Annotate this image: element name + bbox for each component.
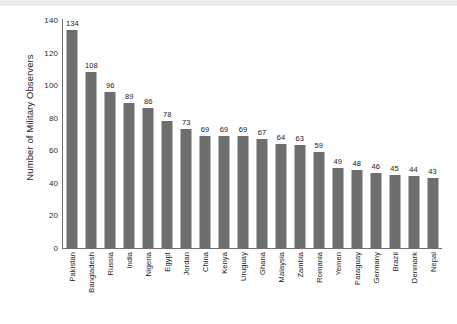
bar-value-label: 96 [106, 81, 115, 90]
bar[interactable] [351, 170, 362, 248]
bar-value-label: 134 [66, 19, 79, 28]
x-tick-slot: Russia [101, 250, 120, 324]
bar-value-label: 43 [428, 167, 437, 176]
x-tick-label: Germany [371, 252, 380, 284]
x-tick-slot: Jordan [177, 250, 196, 324]
x-tick-label: India [125, 252, 134, 269]
x-tick-label: Yemen [333, 252, 342, 276]
bar[interactable] [219, 136, 230, 248]
x-tick-slot: Yemen [328, 250, 347, 324]
x-tick-slot: Pakistan [63, 250, 82, 324]
bar[interactable] [389, 175, 400, 248]
bar[interactable] [313, 152, 324, 248]
bar-slot: 73 [177, 20, 196, 248]
bar[interactable] [294, 145, 305, 248]
bar-slot: 69 [215, 20, 234, 248]
x-tick-label: Nigeria [144, 252, 153, 276]
bar-slot: 89 [120, 20, 139, 248]
x-tick-label: Pakistan [68, 252, 77, 282]
bar-value-label: 69 [201, 125, 210, 134]
x-tick-slot: Nigeria [139, 250, 158, 324]
x-axis-line [62, 248, 442, 249]
bar[interactable] [332, 168, 343, 248]
y-tick-label: 140 [34, 16, 58, 25]
bar-slot: 48 [347, 20, 366, 248]
y-axis-title: Number of Military Observers [24, 38, 35, 198]
bar[interactable] [181, 129, 192, 248]
x-tick-label: Jordan [182, 252, 191, 276]
bar-value-label: 69 [239, 125, 248, 134]
x-axis-tick-labels: PakistanBangladeshRussiaIndiaNigeriaEgyp… [63, 250, 442, 324]
x-tick-slot: Romania [309, 250, 328, 324]
bar-slot: 69 [234, 20, 253, 248]
bar-slot: 44 [404, 20, 423, 248]
bar[interactable] [256, 139, 267, 248]
bar-value-label: 46 [371, 162, 380, 171]
bar[interactable] [124, 103, 135, 248]
bar[interactable] [105, 92, 116, 248]
bar[interactable] [427, 178, 438, 248]
bar[interactable] [408, 176, 419, 248]
bar-value-label: 49 [333, 157, 342, 166]
x-tick-label: Egypt [163, 252, 172, 272]
plot-area: 1341089689867873696969676463594948464544… [63, 20, 442, 248]
x-tick-slot: Ghana [253, 250, 272, 324]
y-tick-label: 60 [34, 146, 58, 155]
x-tick-label: Paraguay [352, 252, 361, 285]
bar-value-label: 73 [182, 118, 191, 127]
bar-slot: 108 [82, 20, 101, 248]
bar-slot: 69 [196, 20, 215, 248]
x-tick-slot: Denmark [404, 250, 423, 324]
bar-value-label: 45 [390, 164, 399, 173]
bar-value-label: 63 [296, 134, 305, 143]
bar[interactable] [67, 30, 78, 248]
bar-slot: 43 [423, 20, 442, 248]
bar-slot: 63 [290, 20, 309, 248]
bar[interactable] [275, 144, 286, 248]
bar-slot: 134 [63, 20, 82, 248]
x-tick-slot: Kenya [215, 250, 234, 324]
x-tick-label: Malaysia [276, 252, 285, 282]
x-tick-label: Bangladesh [87, 252, 96, 293]
y-tick-label: 120 [34, 48, 58, 57]
bar[interactable] [143, 108, 154, 248]
y-tick-label: 0 [34, 244, 58, 253]
bar-slot: 45 [385, 20, 404, 248]
bar-value-label: 64 [277, 133, 286, 142]
x-tick-label: Brazil [390, 252, 399, 271]
bar-value-label: 67 [258, 128, 267, 137]
x-tick-slot: Malaysia [271, 250, 290, 324]
x-tick-slot: Germany [366, 250, 385, 324]
bar-slot: 67 [253, 20, 272, 248]
bar[interactable] [238, 136, 249, 248]
bar[interactable] [200, 136, 211, 248]
y-tick-label: 40 [34, 178, 58, 187]
x-tick-label: Russia [106, 252, 115, 276]
bar-value-label: 108 [85, 61, 98, 70]
bar[interactable] [162, 121, 173, 248]
x-tick-label: Kenya [220, 252, 229, 274]
x-tick-label: Zambia [295, 252, 304, 278]
x-tick-label: Ghana [257, 252, 266, 275]
y-tick-label: 20 [34, 211, 58, 220]
x-tick-label: China [201, 252, 210, 272]
y-tick-label: 100 [34, 81, 58, 90]
bar[interactable] [370, 173, 381, 248]
bar-slot: 46 [366, 20, 385, 248]
bar-value-label: 89 [125, 92, 134, 101]
bar-slot: 59 [309, 20, 328, 248]
x-tick-label: Nepal [428, 252, 437, 272]
bar-value-label: 48 [352, 159, 361, 168]
y-tick-label: 80 [34, 113, 58, 122]
bar-slot: 49 [328, 20, 347, 248]
x-tick-slot: Brazil [385, 250, 404, 324]
bar-slot: 64 [271, 20, 290, 248]
y-axis-tick-labels: 020406080100120140 [34, 0, 58, 324]
bar-value-label: 59 [315, 141, 324, 150]
x-tick-slot: Zambia [290, 250, 309, 324]
x-tick-label: Romania [314, 252, 323, 283]
x-tick-slot: Uruguay [234, 250, 253, 324]
bar-slot: 78 [158, 20, 177, 248]
bar[interactable] [86, 72, 97, 248]
bar-value-label: 69 [220, 125, 229, 134]
